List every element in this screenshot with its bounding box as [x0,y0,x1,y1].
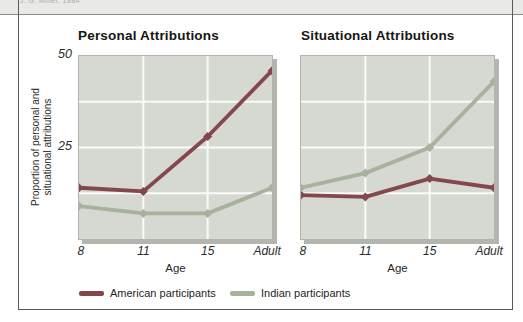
legend-label-american: American participants [110,287,216,299]
x-tick-situational-adult: Adult [475,244,502,258]
figure: J. G. Miller, 1984 Personal Attributions… [0,0,523,322]
x-axis-label-situational: Age [387,262,407,274]
line-chart-personal [79,56,272,239]
x-axis-label-personal: Age [165,262,185,274]
credit-text: J. G. Miller, 1984 [20,0,80,4]
x-tick-personal-adult: Adult [253,244,280,258]
x-tick-personal-15: 15 [201,244,214,258]
credit-strip: J. G. Miller, 1984 [0,0,523,15]
y-axis-label: Proportion of personal and situational a… [30,47,53,247]
american-line-swatch [79,291,104,296]
indian-line-swatch [230,291,255,296]
plot-personal: 8 11 15 Adult Age [78,55,273,240]
line-chart-situational [301,56,494,239]
x-tick-situational-15: 15 [423,244,436,258]
panel-title-situational: Situational Attributions [301,28,455,43]
y-axis-label-line2: situational attributions [41,99,52,196]
x-tick-personal-8: 8 [78,244,85,258]
legend-item-american: American participants [79,285,216,301]
legend-item-indian: Indian participants [230,285,350,301]
panel-title-personal: Personal Attributions [78,28,219,43]
x-tick-situational-11: 11 [359,244,371,258]
x-tick-personal-11: 11 [137,244,149,258]
plot-situational: 8 11 15 Adult Age [300,55,495,240]
x-tick-situational-8: 8 [300,244,307,258]
legend: American participants Indian participant… [0,285,523,301]
legend-label-indian: Indian participants [261,287,350,299]
y-axis-label-line1: Proportion of personal and [30,88,41,206]
